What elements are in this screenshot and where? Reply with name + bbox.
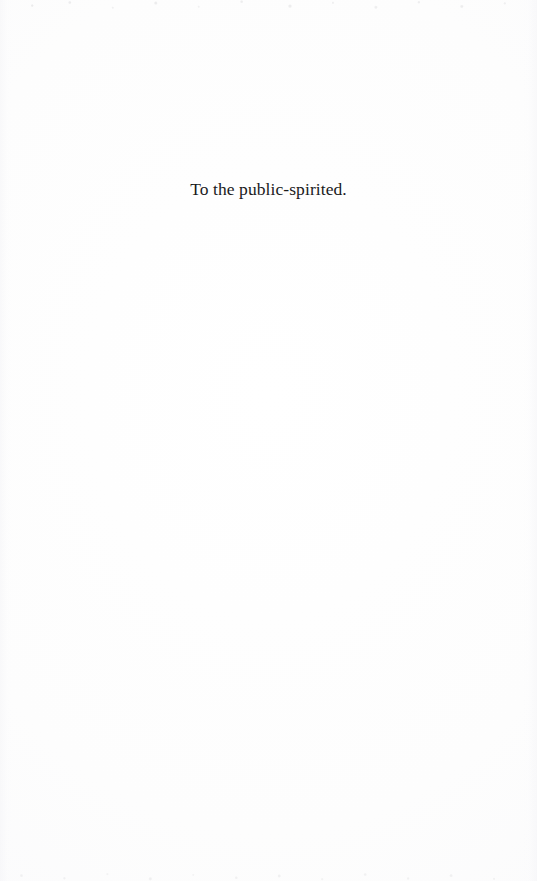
scan-artifact-left-edge	[0, 0, 12, 881]
scan-artifact-top-edge	[0, 0, 537, 14]
scan-artifact-right-edge	[523, 0, 537, 881]
paper-tone-overlay	[0, 0, 537, 881]
dedication-text: To the public-spirited.	[190, 178, 347, 200]
scan-artifact-bottom-edge	[0, 863, 537, 881]
scanned-book-page: To the public-spirited.	[0, 0, 537, 881]
dedication-block: To the public-spirited.	[0, 178, 537, 200]
